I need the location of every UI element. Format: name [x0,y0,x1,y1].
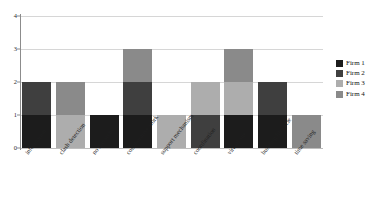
x-axis-label: support mechanism [159,113,195,156]
x-axis-label: clash detection [58,122,87,156]
x-axis-label: virtual site [226,131,248,156]
legend-swatch [336,70,343,77]
legend-swatch [336,60,343,67]
legend-row[interactable]: Firm 1 [336,60,365,67]
legend: Firm 1Firm 2Firm 3Firm 4 [336,60,365,98]
legend-row[interactable]: Firm 4 [336,91,365,98]
legend-label: Firm 4 [346,91,365,98]
x-axis-label: no hierarchy [91,127,116,156]
x-axis-label: collaborative work [125,114,160,156]
x-axis-label: coordination [192,127,217,156]
x-axis-label: information [24,128,48,156]
legend-row[interactable]: Firm 3 [336,80,365,87]
legend-swatch [336,91,343,98]
stacked-bar-chart: 4 3 2 1 0 informationclash detectionno h… [0,0,391,215]
legend-row[interactable]: Firm 2 [336,70,365,77]
legend-swatch [336,80,343,87]
x-axis-label: time saving [293,129,316,156]
x-axis-label: building lifecycle [260,117,293,156]
legend-label: Firm 1 [346,60,365,67]
x-axis-labels: informationclash detectionno hierarchyco… [0,0,391,215]
legend-label: Firm 3 [346,80,365,87]
legend-label: Firm 2 [346,70,365,77]
